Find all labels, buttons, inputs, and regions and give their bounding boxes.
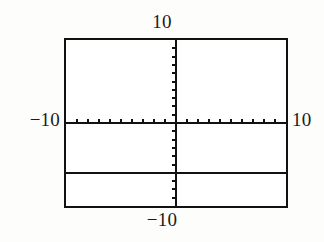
plot-area bbox=[66, 40, 286, 206]
y-axis-min-label: −10 bbox=[0, 210, 324, 229]
plot-frame bbox=[64, 38, 288, 208]
x-axis-min-label: −10 bbox=[14, 110, 60, 129]
plot-canvas bbox=[66, 40, 286, 206]
y-axis-max-label: 10 bbox=[0, 12, 324, 31]
graphing-calculator-screenshot: 10 −10 10 −10 bbox=[0, 0, 324, 242]
x-axis-max-label: 10 bbox=[292, 110, 324, 129]
axes-group bbox=[66, 40, 286, 206]
